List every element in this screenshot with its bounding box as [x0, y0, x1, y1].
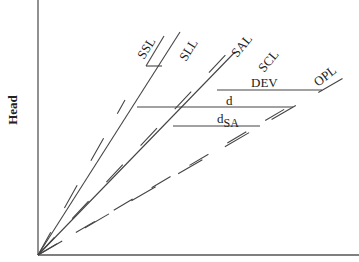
scl-line [38, 52, 235, 255]
opl-label: OPL [311, 62, 340, 89]
sll-label: SLL [176, 36, 201, 64]
head-lines-diagram: Head SSL SLL SAL SCL OPL DEV d dSA [0, 0, 359, 262]
dsa-label: dSA [217, 111, 239, 130]
d-label: d [226, 93, 233, 108]
lower-dashed-line [38, 100, 300, 255]
ssl-label: SSL [134, 35, 159, 62]
dsa-label-subscript: SA [224, 116, 240, 130]
ssl-dashed-line [38, 100, 125, 255]
y-axis-label: Head [5, 94, 20, 124]
dev-label: DEV [251, 75, 278, 90]
sal-dashed-line [38, 48, 232, 255]
scl-label: SCL [255, 47, 282, 75]
